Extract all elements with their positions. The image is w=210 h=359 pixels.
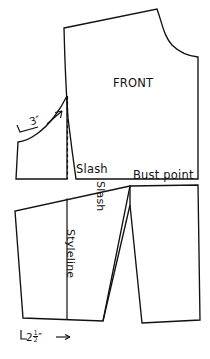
two-half-whole: 2 bbox=[26, 331, 33, 343]
label-bust-point: Bust point bbox=[133, 170, 194, 182]
label-two-half-inch-measure: 212″ bbox=[26, 330, 42, 344]
three-inch-arrow bbox=[47, 111, 62, 124]
label-styleline: Styleline bbox=[65, 229, 76, 278]
label-slash-vertical: Slash bbox=[95, 181, 106, 211]
front-bodice-upper-outline bbox=[64, 9, 198, 179]
lower-right-panel-outline bbox=[130, 185, 200, 323]
left-underarm-panel-outline bbox=[16, 96, 67, 179]
pattern-diagram: FRONT Slash Bust point Slash Styleline 3… bbox=[0, 0, 210, 359]
label-slash-top: Slash bbox=[76, 164, 108, 176]
dart-leg-line bbox=[103, 205, 130, 321]
two-half-unit: ″ bbox=[38, 332, 42, 343]
label-front: FRONT bbox=[113, 78, 153, 90]
